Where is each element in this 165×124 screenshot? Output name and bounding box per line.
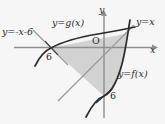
label-curve-g: y=g(x) — [52, 18, 84, 28]
label-line-y-equals-x: y=x — [136, 17, 155, 27]
label-origin: O — [92, 36, 100, 46]
label-line-neg-x-minus-6: y=-x-6 — [2, 27, 33, 37]
label-x-axis: x — [150, 45, 155, 55]
label-tick-x-neg-six: 6 — [46, 52, 52, 62]
label-tick-y-neg-six: 6 — [110, 91, 116, 101]
graph-figure: y=-x-6 y=g(x) y=x y=f(x) y x O 6 6 — [0, 0, 165, 124]
label-y-axis: y — [99, 5, 104, 15]
label-curve-f: y=f(x) — [118, 69, 148, 79]
